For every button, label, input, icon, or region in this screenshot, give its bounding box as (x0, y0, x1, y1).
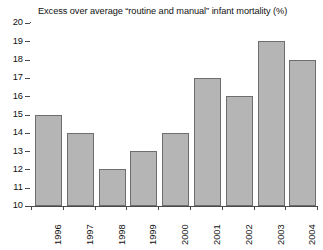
x-axis-tick (95, 206, 96, 210)
x-axis-tick (31, 206, 32, 210)
y-axis-tick-label: 10 (1, 201, 23, 210)
x-axis-tick (158, 206, 159, 210)
y-axis-tick-label: 17 (1, 73, 23, 82)
bar-slot (65, 23, 97, 206)
bar-1997[interactable] (67, 133, 94, 206)
x-axis-tick (222, 206, 223, 210)
x-axis-tick (63, 206, 64, 210)
x-axis-label-text: 2004 (308, 224, 317, 245)
y-axis-tick-label: 15 (1, 110, 23, 119)
bar-2002[interactable] (226, 96, 253, 206)
x-axis-label-text: 2002 (245, 224, 254, 245)
x-axis-label-1999: 1999 (128, 212, 160, 246)
x-axis-label-1998: 1998 (97, 212, 129, 246)
y-axis-tick-label: 14 (1, 128, 23, 137)
bar-slot (224, 23, 256, 206)
x-axis-label-text: 2000 (181, 224, 190, 245)
x-axis-label-2003: 2003 (256, 212, 288, 246)
y-axis-label-group: 2019181716151413121110 (0, 0, 23, 250)
bar-2003[interactable] (258, 41, 285, 206)
bar-1999[interactable] (130, 151, 157, 206)
bar-2004[interactable] (289, 60, 316, 206)
x-axis-label-2001: 2001 (192, 212, 224, 246)
bar-slot (256, 23, 288, 206)
bar-1998[interactable] (99, 169, 126, 206)
y-axis-tick-label: 16 (1, 92, 23, 101)
x-axis-label-text: 1996 (54, 224, 63, 245)
x-axis-label-2000: 2000 (160, 212, 192, 246)
x-axis-label-2004: 2004 (287, 212, 319, 246)
x-axis-label-1997: 1997 (65, 212, 97, 246)
bar-slot (128, 23, 160, 206)
y-axis-tick-label: 13 (1, 147, 23, 156)
bar-2000[interactable] (162, 133, 189, 206)
x-axis-label-text: 1999 (149, 224, 158, 245)
x-axis-tick (126, 206, 127, 210)
bar-1996[interactable] (35, 115, 62, 207)
plot-area (30, 23, 316, 206)
y-axis-tick-label: 19 (1, 37, 23, 46)
x-axis-label-text: 2003 (277, 224, 286, 245)
bar-2001[interactable] (194, 78, 221, 206)
bar-chart-figure: Excess over average “routine and manual”… (0, 0, 323, 250)
chart-title: Excess over average “routine and manual”… (38, 6, 318, 17)
x-axis-label-text: 1998 (118, 224, 127, 245)
x-axis-label-text: 1997 (86, 224, 95, 245)
x-axis-tick (317, 206, 318, 210)
bar-slot (97, 23, 129, 206)
x-axis-label-text: 2001 (213, 224, 222, 245)
x-axis-label-2002: 2002 (224, 212, 256, 246)
y-axis-tick-label: 20 (1, 18, 23, 27)
x-axis-line (30, 206, 318, 207)
y-axis-tick-label: 18 (1, 55, 23, 64)
x-axis-label-1996: 1996 (33, 212, 65, 246)
x-axis-tick (190, 206, 191, 210)
bar-slot (160, 23, 192, 206)
x-axis-tick (285, 206, 286, 210)
x-axis-tick (254, 206, 255, 210)
bar-slot (192, 23, 224, 206)
bar-slot (33, 23, 65, 206)
y-axis-tick-label: 12 (1, 165, 23, 174)
y-axis-tick-label: 11 (1, 183, 23, 192)
bar-slot (287, 23, 319, 206)
